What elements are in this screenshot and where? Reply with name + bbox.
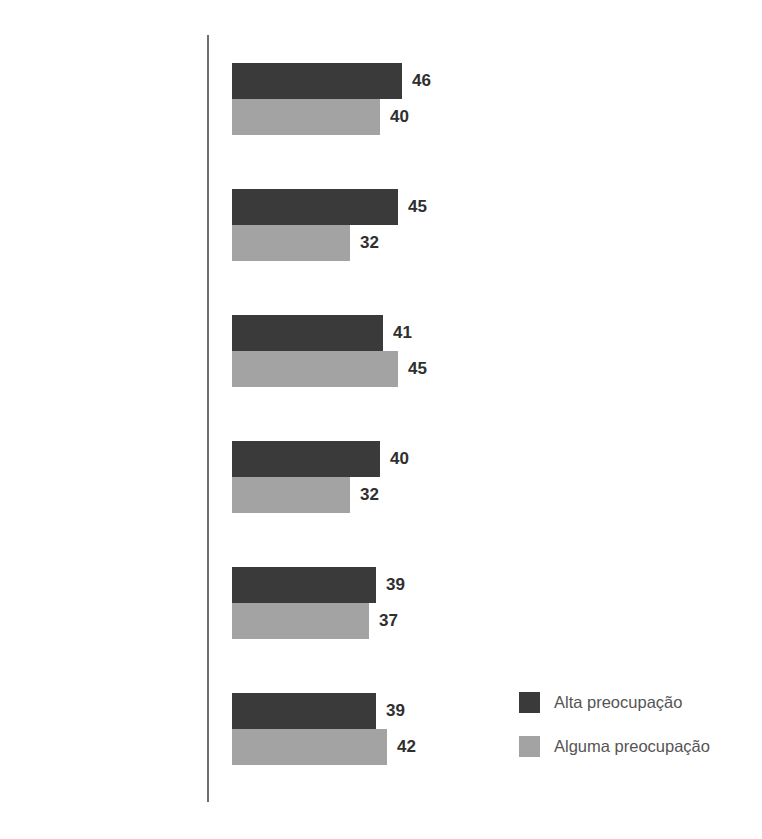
bar-some[interactable] xyxy=(232,477,350,513)
bar-value-some: 45 xyxy=(408,359,427,379)
legend-swatch-icon xyxy=(519,736,540,757)
bar-some[interactable] xyxy=(232,99,380,135)
bar-some[interactable] xyxy=(232,603,369,639)
bar-value-some: 37 xyxy=(379,611,398,631)
bar-value-high: 46 xyxy=(412,71,431,91)
bar-group: Rastreamento do viajante 39 37 xyxy=(0,567,500,639)
bar-value-some: 32 xyxy=(360,485,379,505)
bar-value-high: 39 xyxy=(386,575,405,595)
bar-chart: Inabilidade dos viajantes para negociar … xyxy=(0,0,762,839)
legend: Alta preocupação Alguma preocupação xyxy=(519,690,710,778)
bar-group: Segurança 40 32 xyxy=(0,441,500,513)
bar-value-high: 40 xyxy=(390,449,409,469)
bar-value-some: 32 xyxy=(360,233,379,253)
legend-item-high[interactable]: Alta preocupação xyxy=(519,690,710,714)
bar-high[interactable] xyxy=(232,567,376,603)
bar-value-high: 41 xyxy=(393,323,412,343)
legend-label: Alguma preocupação xyxy=(554,737,710,756)
bar-high[interactable] xyxy=(232,63,402,99)
bar-some[interactable] xyxy=(232,729,387,765)
bar-some[interactable] xyxy=(232,225,350,261)
bar-group: Perda de dados gerenciais 39 42 xyxy=(0,693,500,765)
legend-label: Alta preocupação xyxy=(554,693,682,712)
bar-value-high: 45 xyxy=(408,197,427,217)
bar-some[interactable] xyxy=(232,351,398,387)
bar-high[interactable] xyxy=(232,693,376,729)
bar-high[interactable] xyxy=(232,189,398,225)
legend-item-some[interactable]: Alguma preocupação xyxy=(519,734,710,758)
bar-value-some: 42 xyxy=(397,737,416,757)
bar-high[interactable] xyxy=(232,315,383,351)
bar-value-high: 39 xyxy=(386,701,405,721)
bar-value-some: 40 xyxy=(390,107,409,127)
bar-group: Perda de dados de despesa 45 32 xyxy=(0,189,500,261)
bar-group: Cumprimento da política de viagem 41 45 xyxy=(0,315,500,387)
bar-high[interactable] xyxy=(232,441,380,477)
bar-group: Inabilidade dos viajantes para negociar … xyxy=(0,63,500,135)
legend-swatch-icon xyxy=(519,692,540,713)
